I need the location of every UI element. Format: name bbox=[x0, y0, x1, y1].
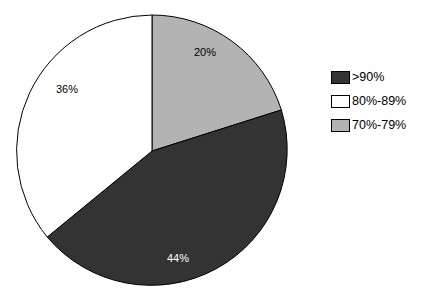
legend-label-70-79: 70%-79% bbox=[352, 119, 406, 132]
pie-chart-figure: 20% 44% 36% >90% 80%-89% 70%-79% bbox=[0, 0, 436, 296]
legend-swatch-70-79 bbox=[331, 119, 350, 132]
legend-item-70-79[interactable]: 70%-79% bbox=[331, 114, 433, 136]
pie-label-gt-90: 44% bbox=[167, 252, 189, 264]
pie-plot-area: 20% 44% 36% bbox=[0, 0, 310, 296]
legend: >90% 80%-89% 70%-79% bbox=[331, 66, 433, 138]
pie-svg: 20% 44% 36% bbox=[0, 0, 310, 296]
legend-label-gt-90: >90% bbox=[352, 71, 384, 84]
legend-label-80-89: 80%-89% bbox=[352, 95, 406, 108]
pie-label-80-89: 36% bbox=[56, 83, 78, 95]
legend-swatch-80-89 bbox=[331, 95, 350, 108]
legend-item-80-89[interactable]: 80%-89% bbox=[331, 90, 433, 112]
legend-swatch-gt-90 bbox=[331, 71, 350, 84]
pie-label-70-79: 20% bbox=[194, 46, 216, 58]
legend-item-gt-90[interactable]: >90% bbox=[331, 66, 433, 88]
